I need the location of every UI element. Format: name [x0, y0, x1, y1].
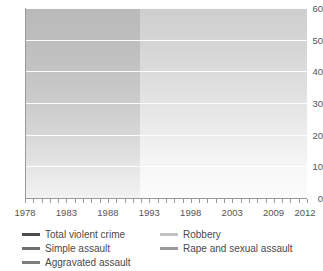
- x-minor-tick: [125, 199, 126, 203]
- x-minor-tick: [274, 199, 275, 203]
- x-minor-tick: [183, 199, 184, 203]
- legend-swatch-rape-and-sexual-assault: [160, 247, 178, 250]
- x-minor-tick: [75, 199, 76, 203]
- plot-area: [25, 8, 307, 198]
- legend-label-rape-and-sexual-assault: Rape and sexual assault: [183, 243, 293, 254]
- y-tick-label-0: 0: [303, 194, 323, 203]
- x-tick-label-2003: 2003: [214, 208, 250, 217]
- x-minor-tick: [58, 199, 59, 203]
- y-tick-label-10: 10: [303, 162, 323, 171]
- x-tick-label-2009: 2009: [256, 208, 292, 217]
- x-minor-tick: [158, 199, 159, 203]
- legend-label-simple-assault: Simple assault: [45, 243, 110, 254]
- x-minor-tick: [133, 199, 134, 203]
- legend-swatch-robbery: [160, 233, 178, 236]
- y-axis-line: [25, 8, 26, 199]
- x-minor-tick: [116, 199, 117, 203]
- x-minor-tick: [66, 199, 67, 203]
- gridline-30: [25, 103, 307, 104]
- x-minor-tick: [108, 199, 109, 203]
- gridline-10: [25, 166, 307, 167]
- x-tick-label-1993: 1993: [131, 208, 167, 217]
- x-minor-tick: [191, 199, 192, 203]
- x-tick-label-2012: 2012: [288, 208, 322, 217]
- x-tick-label-1983: 1983: [48, 208, 84, 217]
- legend-swatch-aggravated-assault: [22, 261, 40, 264]
- x-minor-tick: [299, 199, 300, 203]
- gridline-40: [25, 71, 307, 72]
- x-minor-tick: [282, 199, 283, 203]
- x-minor-tick: [149, 199, 150, 203]
- y-tick-label-30: 30: [303, 99, 323, 108]
- x-minor-tick: [91, 199, 92, 203]
- x-minor-tick: [83, 199, 84, 203]
- x-tick-label-1978: 1978: [7, 208, 43, 217]
- y-tick-label-50: 50: [303, 36, 323, 45]
- x-minor-tick: [141, 199, 142, 203]
- legend-label-robbery: Robbery: [183, 229, 221, 240]
- x-minor-tick: [224, 199, 225, 203]
- legend-item-aggravated-assault: Aggravated assault: [22, 257, 131, 268]
- legend-item-total-violent-crime: Total violent crime: [22, 229, 125, 240]
- x-minor-tick: [199, 199, 200, 203]
- x-minor-tick: [266, 199, 267, 203]
- legend-label-total-violent-crime: Total violent crime: [45, 229, 125, 240]
- x-minor-tick: [174, 199, 175, 203]
- x-minor-tick: [50, 199, 51, 203]
- gridline-20: [25, 135, 307, 136]
- y-tick-label-40: 40: [303, 67, 323, 76]
- legend-label-aggravated-assault: Aggravated assault: [45, 257, 131, 268]
- gridline-60: [25, 8, 307, 9]
- y-tick-label-20: 20: [303, 131, 323, 140]
- legend-item-simple-assault: Simple assault: [22, 243, 110, 254]
- x-tick-label-1998: 1998: [173, 208, 209, 217]
- legend-item-robbery: Robbery: [160, 229, 221, 240]
- chart-container: 60 50 40 30 20 10 0 1978 1983 1988 1993 …: [0, 0, 323, 271]
- gridline-50: [25, 40, 307, 41]
- legend-swatch-simple-assault: [22, 247, 40, 250]
- y-tick-label-60: 60: [303, 4, 323, 13]
- legend-item-rape-and-sexual-assault: Rape and sexual assault: [160, 243, 293, 254]
- x-minor-tick: [100, 199, 101, 203]
- x-minor-tick: [241, 199, 242, 203]
- x-minor-tick: [249, 199, 250, 203]
- legend-swatch-total-violent-crime: [22, 233, 40, 236]
- x-minor-tick: [25, 199, 26, 203]
- x-minor-tick: [257, 199, 258, 203]
- x-minor-tick: [232, 199, 233, 203]
- x-minor-tick: [33, 199, 34, 203]
- x-minor-tick: [290, 199, 291, 203]
- x-minor-tick: [207, 199, 208, 203]
- x-minor-tick: [166, 199, 167, 203]
- x-minor-tick: [42, 199, 43, 203]
- x-minor-tick: [216, 199, 217, 203]
- x-tick-label-1988: 1988: [90, 208, 126, 217]
